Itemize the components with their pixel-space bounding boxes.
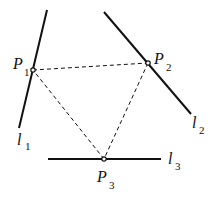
dashed-edge-P2-P3	[104, 63, 148, 159]
labels-layer: l1l2l3P1P2P3	[12, 50, 205, 191]
line-l2-label: l	[192, 114, 197, 131]
line-l1-label: l	[17, 131, 22, 148]
point-P2-subscript: 2	[166, 61, 172, 73]
points-layer	[31, 61, 150, 161]
point-P3-subscript: 3	[109, 179, 115, 191]
line-l3-subscript: 3	[175, 160, 181, 172]
point-P1-subscript: 1	[24, 66, 30, 78]
point-P2	[146, 61, 150, 65]
point-P2-label: P	[153, 50, 164, 67]
dashed-edge-P1-P2	[33, 63, 148, 70]
line-l2-subscript: 2	[199, 124, 205, 136]
point-P1	[31, 68, 35, 72]
dashed-triangle	[33, 63, 148, 159]
point-P1-label: P	[12, 55, 23, 72]
line-l3-label: l	[168, 150, 173, 167]
point-P3-label: P	[96, 168, 107, 185]
line-l1-subscript: 1	[25, 140, 31, 152]
point-P3	[102, 157, 106, 161]
dashed-edge-P3-P1	[33, 70, 104, 159]
lines-layer	[19, 10, 191, 159]
geometry-diagram: l1l2l3P1P2P3	[0, 0, 213, 197]
